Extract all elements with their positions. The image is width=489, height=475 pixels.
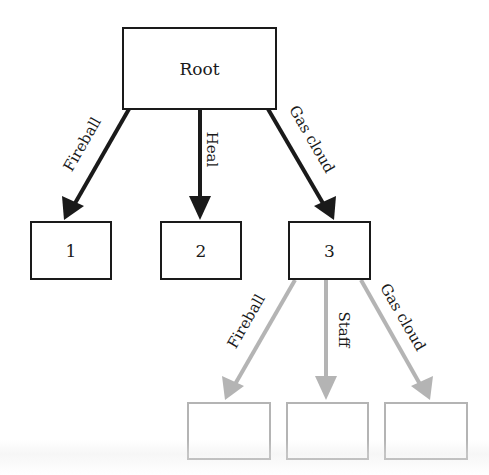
root-node: Root	[122, 27, 277, 110]
node-1-label: 1	[66, 241, 77, 261]
edge-3-to-b	[315, 280, 337, 400]
node-3: 3	[288, 221, 371, 280]
arrowhead-icon	[189, 196, 211, 220]
root-node-label: Root	[179, 59, 219, 79]
node-3b	[286, 402, 369, 460]
arrowhead-icon	[222, 376, 244, 400]
node-3-label: 3	[324, 241, 335, 261]
node-1: 1	[30, 221, 112, 280]
arrowhead-icon	[314, 196, 336, 220]
edge-label-staff: Staff	[336, 312, 351, 348]
node-2-label: 2	[196, 241, 207, 261]
node-2: 2	[160, 221, 242, 280]
arrowhead-icon	[62, 196, 84, 220]
edge-label-heal: Heal	[204, 132, 219, 168]
node-3c	[384, 402, 468, 460]
node-3a	[187, 402, 271, 460]
decision-tree-diagram: Root 1 2 3 Fireball Heal Gas cloud Fireb…	[0, 0, 489, 475]
arrowhead-icon	[411, 376, 433, 400]
arrowhead-icon	[315, 376, 337, 400]
